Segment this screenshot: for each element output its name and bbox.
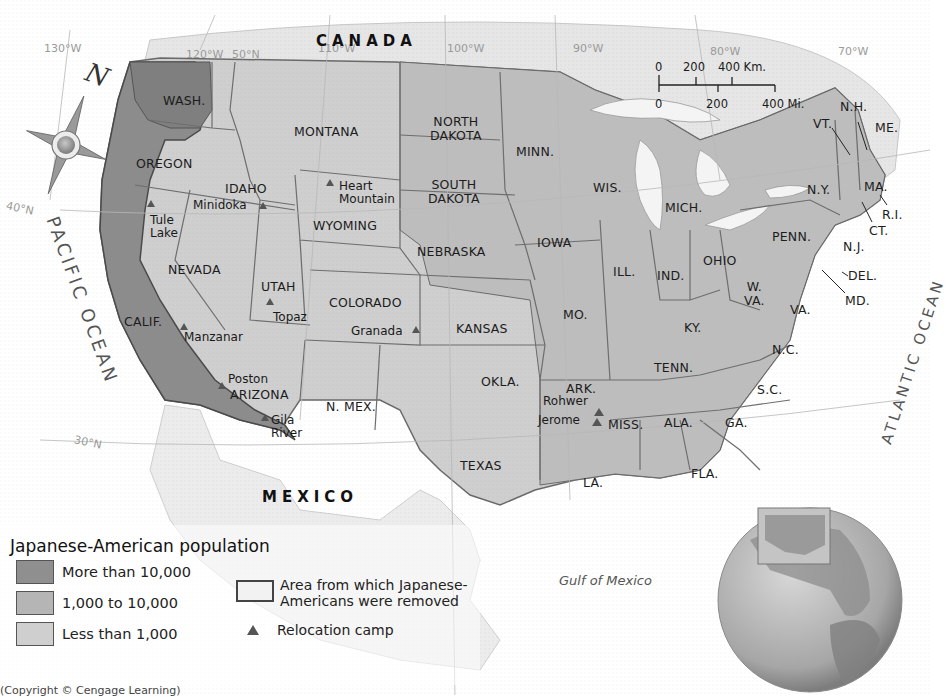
legend-label-high: More than 10,000 [62,564,191,580]
state-label-mich: MICH. [665,201,702,215]
state-label-ny: N.Y. [807,183,830,197]
state-label-montana: MONTANA [294,125,359,139]
legend-item-mid: 1,000 to 10,000 [16,591,178,615]
locator-globe [718,508,902,692]
state-label-kansas: KANSAS [456,322,508,336]
legend-item-low: Less than 1,000 [16,622,178,646]
state-label-fla: FLA. [691,467,719,481]
scale-km-400: 400 Km. [718,60,766,74]
camp-label-granada: Granada [351,325,403,338]
legend-label-exclusion: Area from which Japanese- Americans were… [280,577,468,609]
state-label-ct: CT. [869,224,888,238]
state-label-ga: GA. [725,416,748,430]
triangle-camp-icon [247,625,259,635]
legend-item-relocation-camp: Relocation camp [247,622,394,638]
state-label-md: MD. [845,294,870,308]
legend-swatch-exclusion [236,580,274,602]
scale-mi-200: 200 [706,97,728,111]
state-label-ill: ILL. [613,265,635,279]
state-label-utah: UTAH [261,280,296,294]
state-label-idaho: IDAHO [225,182,267,196]
scale-km-200: 200 [683,60,705,74]
state-label-minn: MINN. [516,145,554,159]
state-label-wyoming: WYOMING [313,219,377,233]
camp-label-gila-river: Gila River [271,414,302,439]
state-label-ohio: OHIO [703,254,737,268]
state-label-nmex: N. MEX. [326,400,376,414]
state-label-me: ME. [875,121,898,135]
legend-label-low: Less than 1,000 [62,626,178,642]
state-label-nc: N.C. [772,343,799,357]
legend-title: Japanese-American population [10,536,270,556]
state-label-la: LA. [583,476,603,490]
country-label-mexico: MEXICO [262,488,358,506]
state-label-ri: R.I. [882,208,903,222]
state-label-north-dakota: NORTH DAKOTA [430,115,482,143]
state-label-nh: N.H. [840,100,867,114]
legend-swatch-high [16,560,54,584]
state-label-okla: OKLA. [481,375,520,389]
state-label-ind: IND. [657,269,684,283]
camp-label-manzanar: Manzanar [184,331,243,344]
camp-label-jerome: Jerome [538,414,580,427]
state-label-south-dakota: SOUTH DAKOTA [428,178,480,206]
state-label-penn: PENN. [772,230,811,244]
camp-label-poston: Poston [228,373,268,386]
state-label-sc: S.C. [757,383,782,397]
state-label-calif: CALIF. [124,315,162,329]
camp-label-rohwer: Rohwer [543,395,588,408]
legend-item-high: More than 10,000 [16,560,191,584]
graticule-label-70w: 70°W [838,45,868,58]
camp-label-tule-lake: Tule Lake [150,214,178,239]
state-label-nebraska: NEBRASKA [417,245,486,259]
graticule-label-80w: 80°W [710,45,740,58]
graticule-label-50n: 50°N [232,48,260,61]
state-label-ala: ALA. [664,416,693,430]
state-label-wis: WIS. [593,181,622,195]
copyright-credit: (Copyright © Cengage Learning) [0,684,180,697]
graticule-label-130w: 130°W [44,42,81,55]
legend-label-mid: 1,000 to 10,000 [62,595,178,611]
state-label-miss: MISS. [608,418,643,432]
water-label-gulf: Gulf of Mexico [559,573,652,588]
camp-label-minidoka: Minidoka [193,199,247,212]
scale-mi-0: 0 [655,97,662,111]
legend-swatch-low [16,622,54,646]
state-label-texas: TEXAS [460,459,502,473]
state-label-mo: MO. [563,308,588,322]
state-label-ky: KY. [684,321,701,335]
graticule-label-120w: 120°W [186,48,223,61]
camp-label-topaz: Topaz [273,311,307,324]
state-label-nj: N.J. [843,240,865,254]
legend-swatch-mid [16,591,54,615]
state-label-va: VA. [790,303,811,317]
state-label-wva: W. VA. [744,280,765,308]
legend-label-camp: Relocation camp [277,622,394,638]
scale-mi-400: 400 Mi. [762,97,804,111]
state-label-del: DEL. [848,269,877,283]
graticule-label-100w: 100°W [447,42,484,55]
graticule-label-90w: 90°W [573,42,603,55]
state-label-arizona: ARIZONA [230,388,289,402]
state-label-vt: VT. [813,117,832,131]
state-label-iowa: IOWA [537,236,572,250]
state-label-colorado: COLORADO [329,296,402,310]
country-label-canada: CANADA [316,32,417,50]
state-label-wash: WASH. [163,94,205,108]
state-label-ma: MA. [864,180,888,194]
state-label-oregon: OREGON [136,157,193,171]
state-label-nevada: NEVADA [168,263,221,277]
state-label-tenn: TENN. [654,361,693,375]
camp-label-heart-mountain: Heart Mountain [339,180,395,205]
legend-item-exclusion-area: Area from which Japanese- Americans were… [236,577,468,609]
scale-km-0: 0 [655,60,662,74]
